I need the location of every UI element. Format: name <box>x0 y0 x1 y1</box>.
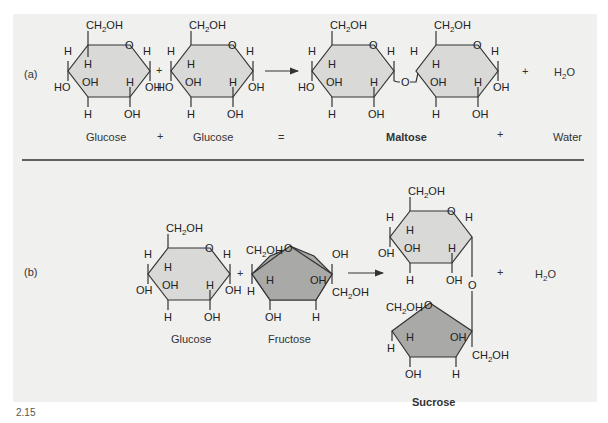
water-formula-b: H2O <box>535 268 556 283</box>
svg-text:OH: OH <box>82 76 99 88</box>
svg-text:CH2OH: CH2OH <box>472 349 509 364</box>
svg-text:OH: OH <box>310 274 327 286</box>
svg-text:OH: OH <box>378 247 395 259</box>
svg-text:HO: HO <box>54 81 71 93</box>
svg-text:H: H <box>406 274 414 286</box>
svg-text:H: H <box>406 224 414 236</box>
svg-text:CH2OH: CH2OH <box>330 19 367 34</box>
caption-plus-a2: + <box>497 128 503 140</box>
glucose-a2-structure: CH2OH O H H HO OH H H OH H OH <box>157 19 265 120</box>
caption-glucose-a1: Glucose <box>86 131 126 143</box>
svg-text:O: O <box>125 39 134 51</box>
caption-sucrose: Sucrose <box>412 396 455 408</box>
svg-text:H: H <box>474 76 482 88</box>
caption-glucose-a2: Glucose <box>193 131 233 143</box>
svg-text:H: H <box>164 261 172 273</box>
svg-text:H: H <box>410 45 418 57</box>
svg-text:H: H <box>448 242 456 254</box>
svg-text:H: H <box>187 108 195 120</box>
svg-text:H: H <box>491 45 499 57</box>
svg-text:H: H <box>266 274 274 286</box>
caption-equals: = <box>278 131 284 143</box>
caption-maltose: Maltose <box>386 131 427 143</box>
svg-text:H: H <box>387 45 395 57</box>
svg-text:CH2OH: CH2OH <box>189 19 226 34</box>
plus-sign: + <box>156 64 162 76</box>
svg-text:H: H <box>229 76 237 88</box>
svg-text:H: H <box>64 45 72 57</box>
svg-text:OH: OH <box>493 81 510 93</box>
svg-text:H: H <box>370 76 378 88</box>
figure-number: 2.15 <box>16 407 35 418</box>
svg-text:H: H <box>223 248 231 260</box>
svg-text:OH: OH <box>227 108 244 120</box>
svg-text:HO: HO <box>157 81 174 93</box>
svg-text:H: H <box>406 331 414 343</box>
svg-text:H: H <box>432 58 440 70</box>
svg-text:OH: OH <box>225 284 242 296</box>
svg-text:OH: OH <box>204 311 221 323</box>
svg-text:H: H <box>452 368 460 380</box>
svg-text:OH: OH <box>472 108 489 120</box>
svg-text:H: H <box>143 45 151 57</box>
reaction-diagram: (a) CH2OH O H H HO OH H H OH H OH + CH2O… <box>0 0 608 423</box>
glucose-a1-structure: CH2OH O H H HO OH H H OH H OH <box>54 19 162 120</box>
caption-water: Water <box>553 131 582 143</box>
svg-text:H: H <box>206 279 214 291</box>
caption-glucose-b: Glucose <box>171 333 211 345</box>
svg-text:CH2OH: CH2OH <box>332 286 369 301</box>
plus-sign-a2: + <box>522 65 528 77</box>
svg-text:HO: HO <box>298 81 315 93</box>
svg-text:H: H <box>144 248 152 260</box>
svg-text:OH: OH <box>124 108 141 120</box>
svg-text:H: H <box>386 211 394 223</box>
maltose-structure: CH2OH O H H HO OH H H H OH O CH2OH O H H… <box>298 19 510 120</box>
svg-text:O: O <box>424 299 433 311</box>
fructose-b-structure: CH2OH O H H OH OH H OH CH2OH <box>246 242 369 323</box>
caption-plus-a: + <box>157 130 163 142</box>
svg-text:H: H <box>247 285 255 297</box>
svg-text:O: O <box>447 205 456 217</box>
svg-text:OH: OH <box>450 331 467 343</box>
svg-text:O: O <box>401 76 410 88</box>
svg-text:O: O <box>205 242 214 254</box>
svg-text:H: H <box>187 58 195 70</box>
svg-text:OH: OH <box>162 279 179 291</box>
svg-text:H: H <box>84 108 92 120</box>
svg-text:O: O <box>284 242 293 254</box>
part-a-label: (a) <box>24 68 37 80</box>
svg-text:O: O <box>228 39 237 51</box>
plus-sign-b: + <box>237 267 243 279</box>
svg-text:H: H <box>387 342 395 354</box>
svg-text:OH: OH <box>185 76 202 88</box>
svg-text:CH2OH: CH2OH <box>86 19 123 34</box>
svg-text:OH: OH <box>368 108 385 120</box>
svg-text:OH: OH <box>326 76 343 88</box>
svg-text:H: H <box>164 311 172 323</box>
svg-text:O: O <box>473 39 482 51</box>
svg-text:OH: OH <box>265 311 282 323</box>
svg-text:H: H <box>312 311 320 323</box>
svg-text:H: H <box>328 108 336 120</box>
svg-text:OH: OH <box>405 368 422 380</box>
svg-text:O: O <box>369 39 378 51</box>
svg-text:OH: OH <box>248 81 265 93</box>
svg-text:CH2OH: CH2OH <box>408 185 445 200</box>
svg-text:H: H <box>308 45 316 57</box>
svg-text:OH: OH <box>430 76 447 88</box>
svg-text:OH: OH <box>404 242 421 254</box>
caption-fructose-b: Fructose <box>268 333 311 345</box>
svg-text:CH2OH: CH2OH <box>434 19 471 34</box>
part-b-label: (b) <box>24 266 37 278</box>
svg-text:OH: OH <box>136 284 153 296</box>
svg-text:H: H <box>126 76 134 88</box>
glucose-b-structure: CH2OH O H H OH OH H H OH H OH <box>136 222 242 323</box>
svg-text:OH: OH <box>446 274 463 286</box>
svg-text:H: H <box>432 108 440 120</box>
svg-text:O: O <box>468 279 477 291</box>
svg-text:OH: OH <box>332 248 349 260</box>
water-formula-a: H2O <box>554 66 575 81</box>
svg-text:H: H <box>246 45 254 57</box>
plus-sign-b2: + <box>497 266 503 278</box>
svg-text:H: H <box>328 58 336 70</box>
